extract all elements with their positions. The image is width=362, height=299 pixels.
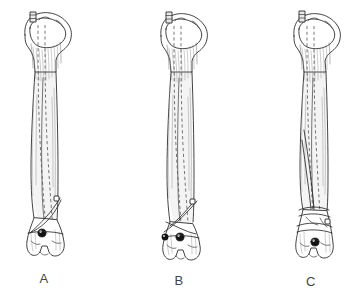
panel-b-interlocking-screw-head — [176, 233, 184, 241]
panel-b-nail-proximal-tip — [166, 12, 172, 23]
panel-a-nail-slot — [54, 196, 59, 201]
panel-a-distal-tibia — [27, 218, 65, 256]
panel-label-a: A — [32, 271, 56, 286]
panel-c-nail-slot — [325, 219, 330, 224]
panel-b-nail-slot — [190, 199, 195, 204]
panel-a-interlocking-screw-head — [38, 229, 46, 237]
panel-label-c: C — [299, 274, 323, 289]
panel-c-interlocking-screw-head — [311, 238, 319, 246]
figure-root: A B C — [0, 0, 362, 299]
panel-a-nail-proximal-tip — [30, 12, 36, 22]
panel-label-b: B — [167, 273, 191, 288]
panel-b-medial-screw-head — [162, 234, 168, 240]
panel-a-tibia — [25, 12, 72, 256]
panel-b-tibia — [161, 12, 208, 260]
panel-c-tibia — [294, 11, 341, 258]
anatomical-illustration-canvas — [0, 0, 362, 299]
panel-c-nail-proximal-tip — [299, 11, 305, 22]
